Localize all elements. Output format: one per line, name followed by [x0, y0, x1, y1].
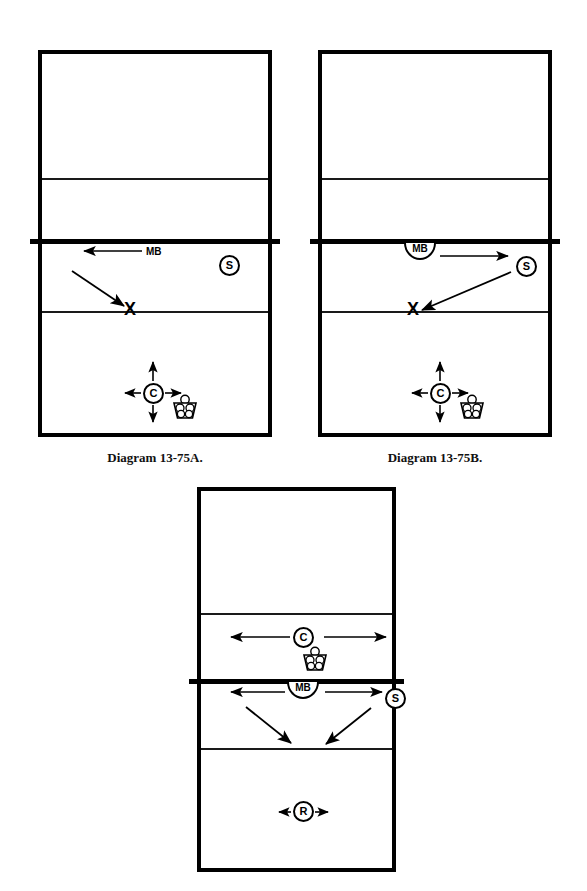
token-setter-c-label: S	[392, 693, 399, 704]
token-coach-b-label: C	[437, 388, 445, 399]
token-setter-c[interactable]: S	[385, 688, 406, 709]
caption-diagram-a: Diagram 13-75A.	[38, 450, 272, 466]
ball-basket-a	[170, 392, 200, 420]
token-middle-blocker-a: MB	[146, 246, 162, 257]
attack-line-near-b	[322, 311, 548, 313]
token-setter-a[interactable]: S	[219, 255, 240, 276]
caption-diagram-b: Diagram 13-75B.	[318, 450, 552, 466]
token-setter-a-label: S	[226, 260, 233, 271]
token-receiver-c[interactable]: R	[293, 801, 314, 822]
token-coach-a-label: C	[150, 388, 158, 399]
token-middle-blocker-a-label: MB	[146, 246, 162, 257]
token-coach-b[interactable]: C	[430, 383, 451, 404]
token-setter-b[interactable]: S	[516, 256, 537, 277]
ball-basket-c	[300, 644, 330, 672]
token-setter-b-label: S	[523, 261, 530, 272]
token-middle-blocker-b-label: MB	[412, 243, 428, 254]
token-receiver-c-label: R	[300, 806, 308, 817]
attack-line-far-c	[201, 613, 392, 615]
target-x-b: X	[407, 300, 419, 318]
target-x-b-label: X	[407, 299, 419, 319]
token-middle-blocker-c-label: MB	[295, 682, 311, 693]
target-x-a: X	[124, 300, 136, 318]
net-line-a	[30, 239, 280, 244]
attack-line-far-a	[42, 178, 268, 180]
ball-basket-b	[457, 392, 487, 420]
token-coach-a[interactable]: C	[143, 383, 164, 404]
attack-line-near-a	[42, 311, 268, 313]
target-x-a-label: X	[124, 299, 136, 319]
token-coach-c-label: C	[300, 632, 308, 643]
attack-line-far-b	[322, 178, 548, 180]
attack-line-near-c	[201, 748, 392, 750]
diagram-page: S MB X C Diagram 13-75A. S MB X C	[0, 0, 587, 891]
